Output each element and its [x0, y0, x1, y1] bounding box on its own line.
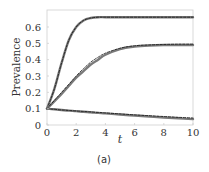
x-tick-label: 6 — [131, 127, 137, 138]
y-tick-label: 0.5 — [25, 38, 41, 49]
y-axis-label: Prevalence — [10, 38, 22, 97]
x-axis-label: t — [118, 133, 123, 146]
y-tick-label: 0.4 — [25, 54, 41, 65]
figure-caption: (a) — [97, 154, 111, 165]
x-tick-label: 8 — [161, 127, 167, 138]
y-tick-label: 0.2 — [25, 87, 41, 98]
y-tick-label: 0 — [35, 120, 41, 131]
x-tick-label: 4 — [102, 127, 108, 138]
prevalence-chart: 00.10.20.30.40.50.6 0246810 Prevalence t… — [0, 0, 209, 172]
plot-frame — [47, 10, 193, 125]
x-tick-label: 0 — [44, 127, 50, 138]
y-axis-ticks: 00.10.20.30.40.50.6 — [25, 22, 49, 131]
plot-area — [47, 10, 193, 125]
x-tick-label: 2 — [73, 127, 79, 138]
y-tick-label: 0.1 — [25, 103, 41, 114]
y-tick-label: 0.3 — [25, 71, 41, 82]
x-tick-label: 10 — [187, 127, 200, 138]
y-tick-label: 0.6 — [25, 22, 41, 33]
